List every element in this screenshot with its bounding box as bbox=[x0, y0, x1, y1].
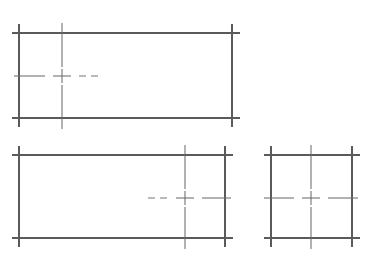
technical-drawing-sheet bbox=[0, 0, 374, 270]
view-bottom-left-group bbox=[12, 145, 233, 249]
drawing-canvas bbox=[0, 0, 374, 270]
view-bottom-right-group bbox=[264, 145, 360, 249]
view-top-left-group bbox=[12, 23, 240, 129]
